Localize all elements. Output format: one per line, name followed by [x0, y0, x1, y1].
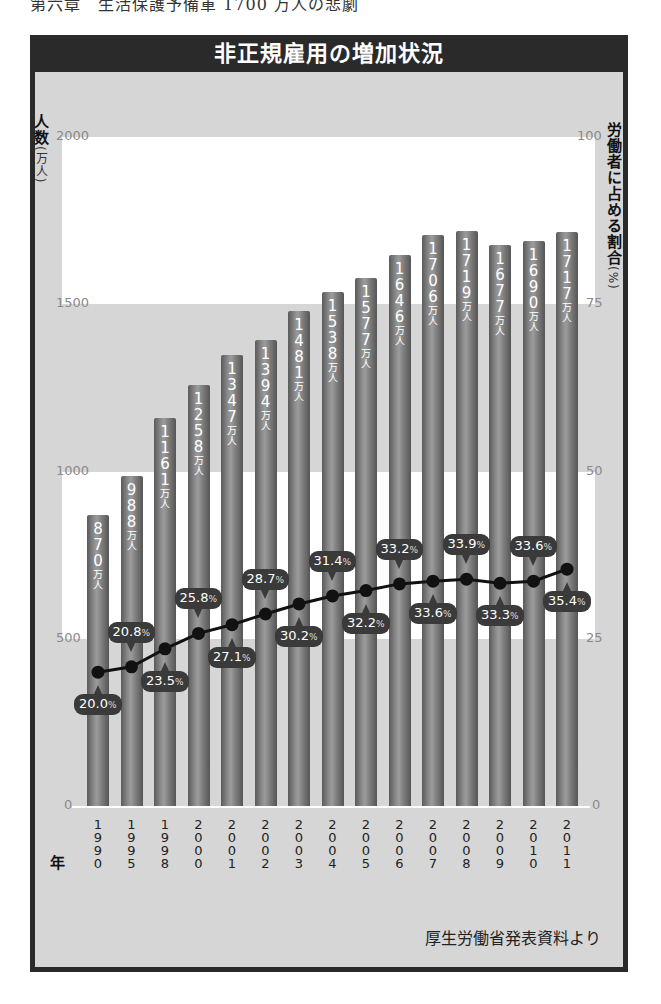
chart-frame: 非正規雇用の増加状況 人数(万人) 労働者に占める割合(%) 年 厚生労働省発表… [30, 35, 628, 972]
data-point-2011 [561, 563, 574, 576]
percentage-label-2000: 25.8% [175, 588, 223, 609]
data-point-1995 [125, 660, 138, 673]
data-point-2000 [192, 627, 205, 640]
data-point-1998 [159, 642, 172, 655]
chart-title: 非正規雇用の増加状況 [30, 35, 628, 72]
data-point-1990 [92, 666, 105, 679]
percentage-label-1995: 20.8% [108, 622, 156, 643]
data-point-2007 [427, 575, 440, 588]
page-header: 第六章 生活保護予備軍 1700 万人の悲劇 [30, 0, 359, 15]
percentage-label-2002: 28.7% [242, 569, 290, 590]
data-point-2006 [393, 577, 406, 590]
percentage-label-2010: 33.6% [510, 536, 558, 557]
data-point-2002 [259, 607, 272, 620]
percentage-label-2006: 33.2% [376, 539, 424, 560]
percentage-label-2005: 32.2% [342, 613, 390, 634]
percentage-label-2007: 33.6% [409, 603, 457, 624]
data-point-2008 [460, 573, 473, 586]
percentage-label-2001: 27.1% [208, 647, 256, 668]
data-point-2010 [527, 575, 540, 588]
percentage-label-2004: 31.4% [309, 551, 357, 572]
percentage-label-1998: 23.5% [141, 671, 189, 692]
percentage-line [35, 72, 623, 967]
percentage-label-2009: 33.3% [476, 605, 524, 626]
percentage-label-2008: 33.9% [443, 534, 491, 555]
percentage-label-1990: 20.0% [74, 694, 122, 715]
percentage-label-2011: 35.4% [543, 591, 591, 612]
percentage-label-2003: 30.2% [275, 626, 323, 647]
plot-panel: 人数(万人) 労働者に占める割合(%) 年 厚生労働省発表資料より 050010… [35, 72, 623, 967]
data-point-2009 [494, 577, 507, 590]
data-point-2004 [326, 589, 339, 602]
data-point-2003 [293, 597, 306, 610]
data-point-2001 [226, 618, 239, 631]
data-point-2005 [360, 584, 373, 597]
